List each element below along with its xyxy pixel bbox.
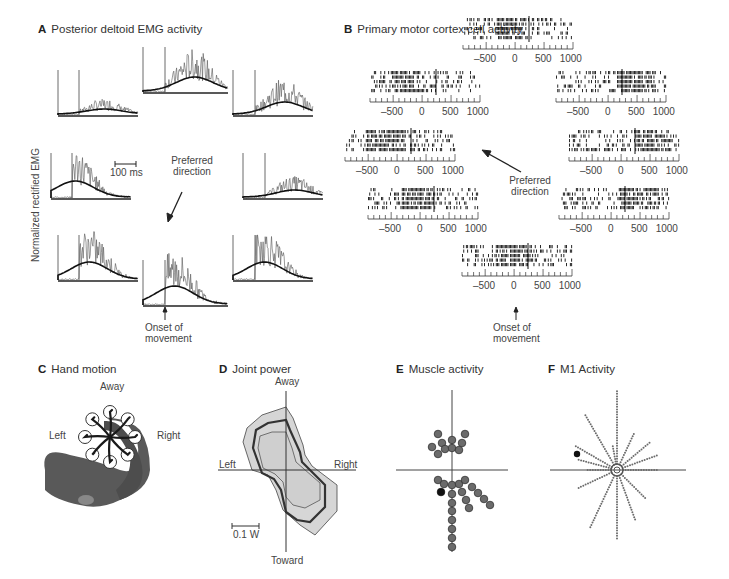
- m1-dot: [580, 459, 582, 461]
- m1-dot: [616, 485, 618, 487]
- m1-dot: [616, 440, 618, 442]
- muscle-dot: [458, 439, 466, 447]
- m1-dot: [616, 519, 618, 521]
- m1-dot: [603, 498, 605, 500]
- m1-dot: [639, 492, 641, 494]
- m1-dot: [616, 432, 618, 434]
- m1-dot: [614, 455, 616, 457]
- m1-dot: [627, 445, 629, 447]
- muscle-dot: [448, 516, 456, 524]
- m1-dot: [616, 398, 618, 400]
- m1-dot: [616, 437, 618, 439]
- m1-dot: [616, 429, 618, 431]
- emg-trace-away-right: [233, 70, 313, 116]
- m1-dot: [633, 516, 635, 518]
- m1-dot: [600, 469, 602, 471]
- raster-plot: [370, 69, 480, 102]
- m1-dot: [632, 469, 634, 471]
- m1-dot: [579, 448, 581, 450]
- m1-dot: [593, 463, 595, 465]
- m1-dot: [599, 505, 601, 507]
- m1-dot: [608, 455, 610, 457]
- m1-dot: [651, 469, 653, 471]
- m1-dot: [616, 393, 618, 395]
- muscle-dot: [448, 499, 456, 507]
- muscle-dot: [468, 483, 476, 491]
- m1-dot: [606, 463, 608, 465]
- m1-dot: [590, 524, 592, 526]
- m1-dot: [616, 458, 618, 460]
- m1-dot: [613, 450, 615, 452]
- m1-dot: [609, 484, 611, 486]
- emg-trace-right: [243, 153, 323, 199]
- emg-trace-left: [51, 153, 131, 199]
- m1-dot: [629, 464, 631, 466]
- m1-dot: [609, 465, 611, 467]
- m1-dot: [607, 489, 609, 491]
- m1-dot: [597, 437, 599, 439]
- panel-a-annotations: [115, 161, 182, 320]
- m1-dot: [640, 469, 642, 471]
- m1-dot: [637, 490, 639, 492]
- m1-dot: [615, 461, 617, 463]
- panel-f-m1-activity: [550, 390, 686, 539]
- m1-dot: [584, 450, 586, 452]
- m1-dot: [590, 462, 592, 464]
- m1-dot: [589, 526, 591, 528]
- m1-dot: [584, 414, 586, 416]
- m1-dot: [616, 390, 618, 392]
- m1-dot: [616, 522, 618, 524]
- raster-plot: [462, 243, 572, 276]
- m1-dot: [621, 459, 623, 461]
- m1-dot: [629, 504, 631, 506]
- panel-b-annotations: [482, 150, 521, 320]
- m1-dot: [641, 448, 643, 450]
- m1-dot: [641, 494, 643, 496]
- muscle-dot: [474, 489, 482, 497]
- m1-dot: [597, 510, 599, 512]
- m1-dot: [604, 475, 606, 477]
- m1-dot: [624, 492, 626, 494]
- raster-plot: [556, 69, 666, 102]
- m1-dot: [653, 469, 655, 471]
- m1-dot: [616, 424, 618, 426]
- m1-dot: [592, 428, 594, 430]
- m1-dot: [627, 499, 629, 501]
- m1-dot: [616, 478, 618, 480]
- m1-dot: [631, 484, 633, 486]
- m1-dot: [598, 464, 600, 466]
- m1-dot: [631, 509, 633, 511]
- m1-dot: [616, 506, 618, 508]
- m1-dot: [606, 491, 608, 493]
- m1-dot: [626, 479, 628, 481]
- m1-dot: [596, 512, 598, 514]
- m1-dot: [589, 481, 591, 483]
- raster-plot: [345, 128, 455, 161]
- m1-dot: [623, 454, 625, 456]
- m1-dot: [616, 504, 618, 506]
- m1-dot: [622, 457, 624, 459]
- m1-dot: [633, 433, 635, 435]
- m1-dot: [605, 469, 607, 471]
- m1-dot: [608, 473, 610, 475]
- m1-dot: [616, 527, 618, 529]
- m1-dot: [593, 519, 595, 521]
- m1-dot: [594, 479, 596, 481]
- m1-dot: [616, 419, 618, 421]
- m1-dot: [580, 486, 582, 488]
- m1-dot: [616, 491, 618, 493]
- muscle-dot: [462, 496, 470, 504]
- muscle-dot: [458, 488, 466, 496]
- muscle-dot: [480, 495, 488, 503]
- m1-dot: [631, 463, 633, 465]
- m1-dot: [596, 478, 598, 480]
- preferred-arrow-b: [487, 153, 521, 172]
- m1-dot: [587, 419, 589, 421]
- m1-dot: [616, 408, 618, 410]
- muscle-dot: [448, 444, 456, 452]
- m1-dot: [648, 469, 650, 471]
- muscle-dot: [448, 525, 456, 533]
- m1-dot: [621, 482, 623, 484]
- m1-dot: [591, 426, 593, 428]
- m1-dot: [630, 469, 632, 471]
